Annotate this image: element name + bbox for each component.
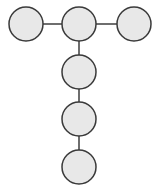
graph-node-circle-n2[interactable] [62,7,96,41]
graph-node-circle-n6[interactable] [62,150,96,184]
graph-node-n6[interactable] [62,150,96,184]
nodes-layer [9,7,151,184]
graph-diagram [0,0,160,186]
graph-node-n5[interactable] [62,102,96,136]
graph-node-circle-n5[interactable] [62,102,96,136]
graph-canvas [0,0,160,186]
graph-node-circle-n1[interactable] [9,7,43,41]
graph-node-circle-n3[interactable] [117,7,151,41]
graph-node-circle-n4[interactable] [62,55,96,89]
graph-node-n2[interactable] [62,7,96,41]
graph-node-n1[interactable] [9,7,43,41]
graph-node-n4[interactable] [62,55,96,89]
graph-node-n3[interactable] [117,7,151,41]
